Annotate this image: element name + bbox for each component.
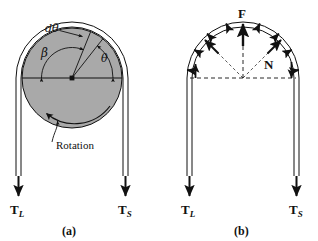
tension-left-symbol-a: T bbox=[10, 202, 19, 217]
tension-left-subscript-b: L bbox=[190, 209, 196, 219]
normal-arrow bbox=[207, 34, 212, 39]
normal-arrow bbox=[226, 24, 229, 30]
tension-left-label-b: TL bbox=[181, 203, 195, 219]
label-normal-force: N bbox=[264, 58, 273, 71]
normal-arrow bbox=[274, 34, 279, 39]
normal-arrow bbox=[293, 70, 299, 71]
normal-arrow-long-left bbox=[205, 40, 219, 54]
figure-container: dθ β θ Rotation TL TS (a) F N TL TS (b) bbox=[0, 0, 318, 241]
normal-arrow bbox=[286, 50, 292, 53]
caption-panel-a: (a) bbox=[62, 225, 76, 237]
normal-arrow bbox=[257, 24, 260, 30]
figure-drawing bbox=[0, 0, 318, 241]
label-rotation: Rotation bbox=[56, 140, 94, 151]
label-resultant-force: F bbox=[238, 7, 246, 20]
panel-b-graphics bbox=[187, 22, 299, 196]
tension-right-symbol-a: T bbox=[118, 202, 127, 217]
normal-arrow-long-right bbox=[268, 40, 282, 54]
tension-right-subscript-b: S bbox=[298, 209, 303, 219]
tension-left-subscript-a: L bbox=[19, 209, 25, 219]
tension-right-symbol-b: T bbox=[289, 202, 298, 217]
tension-right-label-a: TS bbox=[118, 203, 132, 219]
tension-left-label-a: TL bbox=[10, 203, 24, 219]
normal-arrow bbox=[194, 50, 200, 53]
label-beta: β bbox=[41, 47, 48, 59]
tension-right-label-b: TS bbox=[289, 203, 303, 219]
tension-left-symbol-b: T bbox=[181, 202, 190, 217]
normal-arrow bbox=[187, 70, 193, 71]
caption-panel-b: (b) bbox=[234, 225, 249, 237]
tension-right-subscript-a: S bbox=[127, 209, 132, 219]
panel-a-graphics bbox=[16, 22, 128, 196]
label-theta: θ bbox=[101, 53, 108, 64]
label-d-theta: dθ bbox=[45, 23, 59, 34]
pulley-center-dot bbox=[70, 76, 75, 81]
